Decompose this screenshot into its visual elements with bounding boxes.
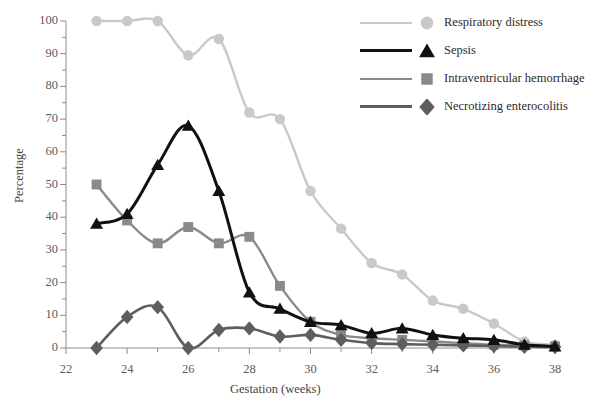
legend-item[interactable]: Necrotizing enterocolitis <box>360 94 594 119</box>
x-tick-label: 36 <box>474 362 514 377</box>
legend-line-swatch <box>360 78 412 80</box>
data-point-triangle <box>243 286 256 297</box>
x-tick-label: 34 <box>413 362 453 377</box>
x-axis-title: Gestation (weeks) <box>230 382 321 397</box>
y-tick-label: 0 <box>12 340 58 355</box>
legend-marker-diamond-icon <box>419 99 435 115</box>
x-tick-label: 32 <box>352 362 392 377</box>
data-point-diamond <box>213 323 226 337</box>
legend-line-swatch <box>360 22 412 24</box>
series-line <box>97 185 555 347</box>
x-tick-label: 30 <box>291 362 331 377</box>
y-tick-label: 90 <box>12 46 58 61</box>
legend-label: Respiratory distress <box>444 15 543 30</box>
data-point-diamond <box>274 329 287 343</box>
data-point-triangle <box>212 185 225 196</box>
legend-line-swatch <box>360 49 412 52</box>
y-tick-label: 100 <box>12 13 58 28</box>
legend-label: Necrotizing enterocolitis <box>444 99 568 114</box>
y-tick-label: 70 <box>12 111 58 126</box>
y-tick-label: 10 <box>12 307 58 322</box>
data-point-diamond <box>419 99 434 115</box>
data-point-circle <box>428 295 438 305</box>
legend-line-swatch <box>360 105 412 108</box>
x-tick-label: 38 <box>535 362 575 377</box>
legend-label: Intraventricular hemorrhage <box>444 71 585 86</box>
data-point-circle <box>244 107 254 117</box>
data-point-diamond <box>243 321 256 335</box>
data-point-square <box>153 238 163 248</box>
legend-label: Sepsis <box>444 43 476 58</box>
data-point-square <box>183 222 193 232</box>
data-point-circle <box>458 304 468 314</box>
legend-item[interactable]: Sepsis <box>360 38 594 63</box>
chart-container: 1009080706050403020100 22242628303234363… <box>0 0 594 409</box>
series-line <box>97 125 555 346</box>
legend-item[interactable]: Respiratory distress <box>360 10 594 35</box>
data-point-square <box>214 238 224 248</box>
data-point-circle <box>152 16 162 26</box>
x-tick-label: 26 <box>168 362 208 377</box>
data-point-circle <box>366 258 376 268</box>
data-point-circle <box>397 269 407 279</box>
data-point-circle <box>122 16 132 26</box>
y-tick-label: 80 <box>12 78 58 93</box>
data-point-circle <box>275 114 285 124</box>
data-point-circle <box>421 16 434 29</box>
x-tick-label: 28 <box>229 362 269 377</box>
data-point-circle <box>336 223 346 233</box>
data-point-circle <box>305 186 315 196</box>
data-point-square <box>92 180 102 190</box>
series-triangle <box>90 119 561 351</box>
legend-marker-square-icon <box>419 71 435 87</box>
x-tick-label: 22 <box>46 362 86 377</box>
legend-item[interactable]: Intraventricular hemorrhage <box>360 66 594 91</box>
data-point-circle <box>183 50 193 60</box>
data-point-circle <box>91 16 101 26</box>
chart-legend: Respiratory distressSepsisIntraventricul… <box>360 10 594 122</box>
y-tick-label: 20 <box>12 275 58 290</box>
data-point-circle <box>489 318 499 328</box>
data-point-square <box>244 232 254 242</box>
data-point-square <box>421 73 432 84</box>
data-point-circle <box>214 34 224 44</box>
x-tick-label: 24 <box>107 362 147 377</box>
data-point-diamond <box>304 328 317 342</box>
data-point-square <box>275 281 285 291</box>
y-axis-title: Percentage <box>12 131 27 221</box>
data-point-triangle <box>419 43 435 57</box>
y-tick-label: 30 <box>12 242 58 257</box>
legend-marker-triangle-icon <box>419 43 435 59</box>
legend-marker-circle-icon <box>419 15 435 31</box>
series-line <box>97 305 555 348</box>
